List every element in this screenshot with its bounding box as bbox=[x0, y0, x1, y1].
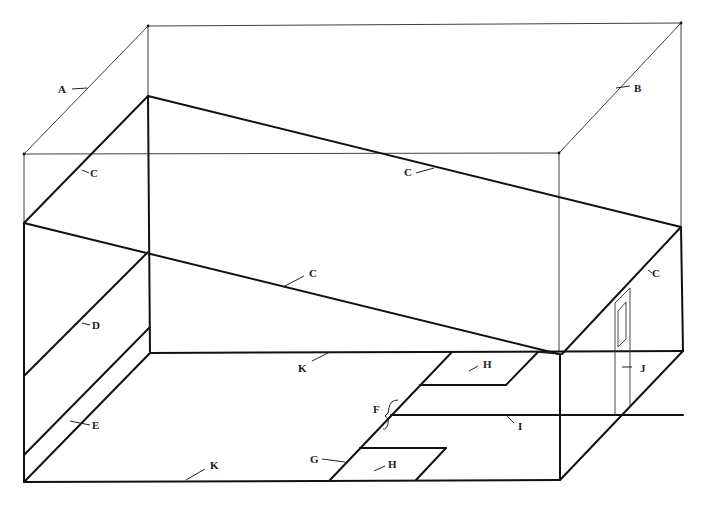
label-J: J bbox=[640, 362, 646, 374]
floor bbox=[24, 351, 683, 482]
diagram-canvas: A B C C C C D E F G H H I J K K bbox=[0, 0, 714, 508]
label-B: B bbox=[634, 82, 642, 94]
label-I: I bbox=[518, 420, 522, 432]
label-D: D bbox=[92, 319, 100, 331]
label-H-lower: H bbox=[388, 458, 397, 470]
label-H-upper: H bbox=[483, 358, 492, 370]
label-C-right: C bbox=[652, 267, 660, 279]
label-C-left: C bbox=[90, 167, 98, 179]
label-F: F bbox=[373, 403, 380, 415]
label-C-middle: C bbox=[309, 267, 317, 279]
label-E: E bbox=[92, 419, 99, 431]
label-C-ceiling: C bbox=[404, 166, 412, 178]
label-K-front: K bbox=[210, 459, 219, 471]
label-A: A bbox=[58, 83, 66, 95]
label-G: G bbox=[310, 453, 319, 465]
label-K-back: K bbox=[298, 362, 307, 374]
label-leaders bbox=[70, 86, 652, 480]
ceiling-edges bbox=[24, 96, 681, 354]
